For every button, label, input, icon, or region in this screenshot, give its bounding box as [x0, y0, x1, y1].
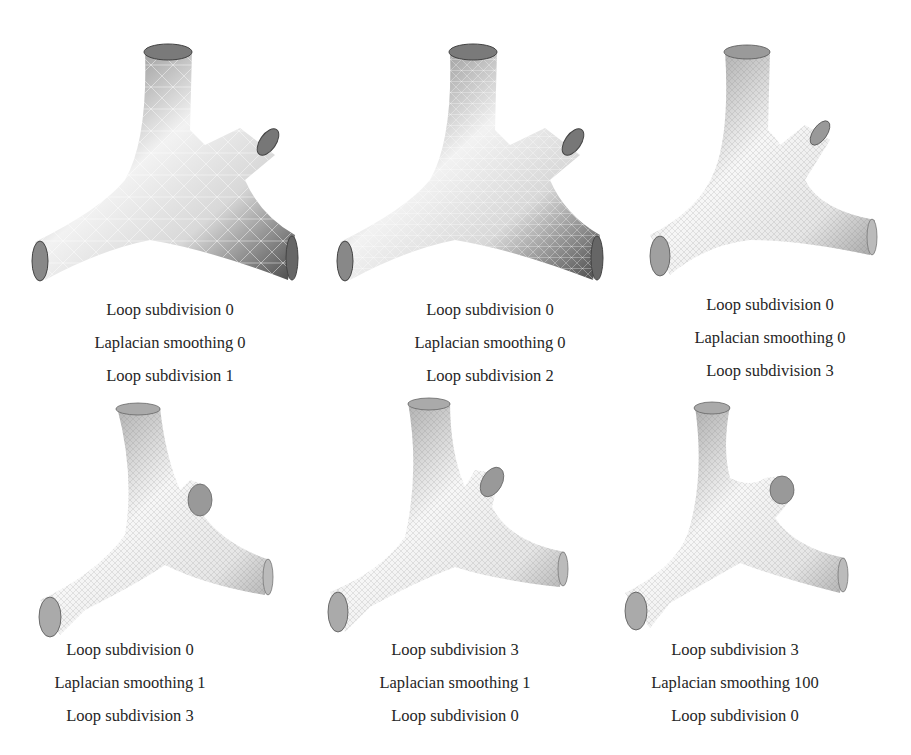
caption-f: Loop subdivision 3 Laplacian smoothing 1…	[615, 633, 855, 732]
caption-line: Loop subdivision 3	[660, 354, 880, 387]
caption-b: Loop subdivision 0 Laplacian smoothing 0…	[380, 293, 600, 392]
mesh-render-c	[630, 30, 890, 280]
mesh-render-f	[610, 398, 860, 638]
caption-c: Loop subdivision 0 Laplacian smoothing 0…	[660, 288, 880, 387]
caption-line: Loop subdivision 3	[30, 699, 230, 732]
caption-line: Laplacian smoothing 0	[60, 326, 280, 359]
caption-e: Loop subdivision 3 Laplacian smoothing 1…	[345, 633, 565, 732]
caption-line: Loop subdivision 0	[30, 633, 230, 666]
caption-line: Loop subdivision 1	[60, 359, 280, 392]
mesh-render-b	[335, 10, 625, 290]
mesh-render-d	[25, 395, 295, 640]
mesh-render-a	[30, 10, 320, 290]
caption-line: Laplacian smoothing 100	[615, 666, 855, 699]
caption-line: Laplacian smoothing 0	[380, 326, 600, 359]
caption-line: Loop subdivision 0	[660, 288, 880, 321]
caption-line: Loop subdivision 2	[380, 359, 600, 392]
caption-line: Loop subdivision 0	[615, 699, 855, 732]
caption-line: Loop subdivision 0	[345, 699, 565, 732]
caption-line: Loop subdivision 0	[60, 293, 280, 326]
caption-line: Laplacian smoothing 1	[345, 666, 565, 699]
caption-line: Loop subdivision 0	[380, 293, 600, 326]
caption-d: Loop subdivision 0 Laplacian smoothing 1…	[30, 633, 230, 732]
caption-line: Loop subdivision 3	[345, 633, 565, 666]
caption-a: Loop subdivision 0 Laplacian smoothing 0…	[60, 293, 280, 392]
caption-line: Loop subdivision 3	[615, 633, 855, 666]
mesh-render-e	[320, 392, 580, 642]
caption-line: Laplacian smoothing 0	[660, 321, 880, 354]
caption-line: Laplacian smoothing 1	[30, 666, 230, 699]
